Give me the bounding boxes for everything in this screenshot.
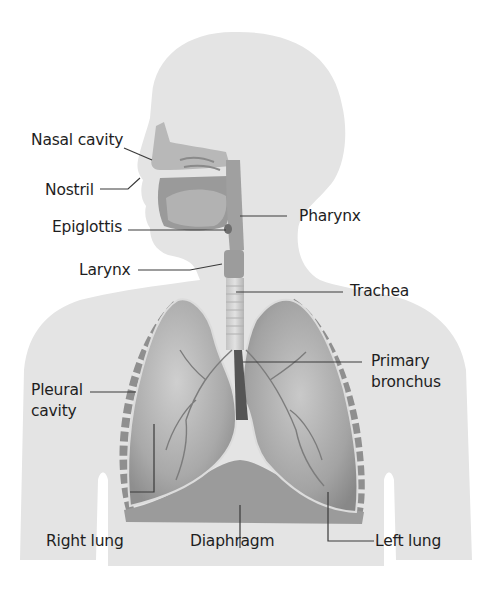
label-trachea: Trachea	[350, 282, 409, 300]
label-primary-bronchus-1: Primary	[371, 352, 430, 370]
label-primary-bronchus-2: bronchus	[371, 373, 441, 391]
respiratory-diagram	[0, 0, 484, 592]
larynx-shape	[224, 250, 244, 278]
label-right-lung: Right lung	[46, 532, 124, 550]
tongue	[166, 189, 227, 226]
epiglottis-shape	[224, 224, 232, 234]
label-pleural-cavity-1: Pleural	[31, 381, 83, 399]
label-nasal-cavity: Nasal cavity	[31, 131, 123, 149]
label-nostril: Nostril	[45, 181, 94, 199]
trachea-shape	[226, 278, 244, 350]
label-left-lung: Left lung	[375, 532, 441, 550]
label-pleural-cavity-2: cavity	[31, 402, 77, 420]
label-epiglottis: Epiglottis	[52, 218, 122, 236]
label-larynx: Larynx	[79, 261, 130, 279]
label-pharynx: Pharynx	[299, 207, 361, 225]
label-diaphragm: Diaphragm	[190, 532, 274, 550]
